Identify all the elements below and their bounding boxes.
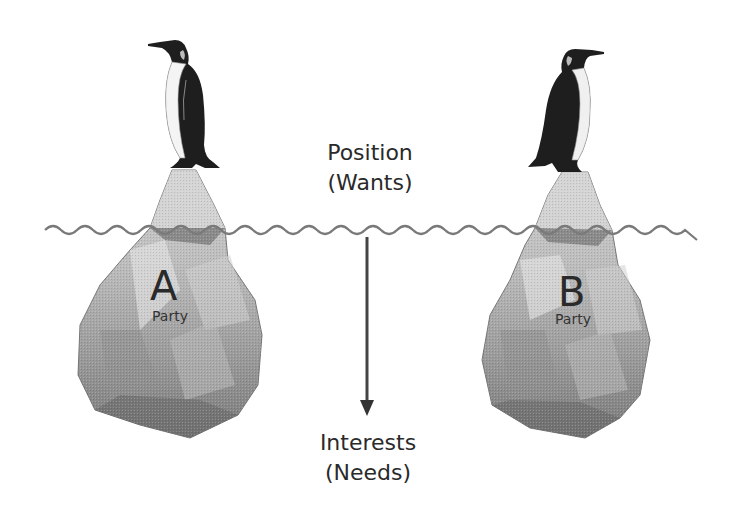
- penguin-icon: [148, 40, 220, 168]
- position-label: Position (Wants): [290, 138, 450, 198]
- party-a-letter: A: [150, 266, 177, 306]
- position-subtitle: (Wants): [290, 168, 450, 198]
- interests-subtitle: (Needs): [288, 458, 448, 488]
- party-a-caption: Party: [152, 309, 188, 323]
- penguin-icon: [528, 49, 604, 172]
- interests-title: Interests: [288, 428, 448, 458]
- party-b-caption: Party: [555, 312, 591, 326]
- party-b-letter: B: [558, 272, 585, 312]
- position-title: Position: [290, 138, 450, 168]
- down-arrow-icon: [360, 237, 374, 416]
- interests-label: Interests (Needs): [288, 428, 448, 488]
